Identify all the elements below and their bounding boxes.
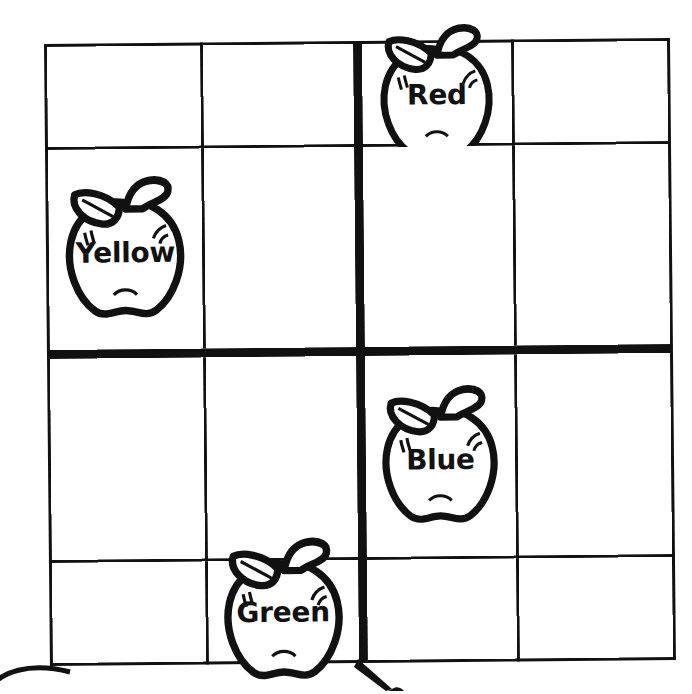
table-row: Green bbox=[50, 555, 674, 664]
apple-label-blue: Blue bbox=[406, 446, 475, 475]
grid-cell-r2c4[interactable] bbox=[514, 143, 672, 351]
table-row: Blue bbox=[48, 349, 673, 561]
partial-arc-mark-icon bbox=[0, 658, 102, 694]
apple-graphic-yellow: Yellow bbox=[48, 149, 203, 351]
grid-cell-r3c2[interactable] bbox=[204, 352, 362, 560]
grid-cell-r4c4[interactable] bbox=[518, 555, 675, 660]
apple-graphic-green: Green bbox=[208, 560, 359, 662]
apple-label-green: Green bbox=[236, 598, 329, 627]
partial-pointer-mark-icon bbox=[352, 655, 442, 691]
table-row: Yellow bbox=[47, 143, 672, 355]
grid-container: Red bbox=[44, 38, 676, 666]
apple-graphic-red: Red bbox=[362, 43, 513, 145]
grid-cell-r4c2[interactable]: Green bbox=[206, 558, 363, 663]
grid-cell-r4c3[interactable] bbox=[362, 557, 519, 662]
grid-cell-r1c2[interactable] bbox=[201, 42, 358, 147]
apple-grid: Red bbox=[44, 38, 676, 666]
apple-label-red: Red bbox=[407, 81, 467, 110]
grid-cell-r4c1[interactable] bbox=[50, 560, 207, 665]
grid-cell-r3c1[interactable] bbox=[48, 353, 206, 561]
grid-cell-r3c3[interactable]: Blue bbox=[360, 350, 518, 558]
table-row: Red bbox=[46, 40, 670, 149]
grid-cell-r3c4[interactable] bbox=[516, 349, 674, 557]
grid-cell-r1c1[interactable] bbox=[46, 44, 203, 149]
grid-cell-r1c4[interactable] bbox=[513, 40, 670, 145]
grid-cell-r2c2[interactable] bbox=[202, 146, 360, 354]
apple-label-yellow: Yellow bbox=[76, 239, 175, 268]
grid-cell-r2c1[interactable]: Yellow bbox=[47, 147, 205, 355]
grid-cell-r1c3[interactable]: Red bbox=[357, 41, 514, 146]
grid-cell-r2c3[interactable] bbox=[358, 144, 516, 352]
apple-graphic-blue: Blue bbox=[365, 355, 517, 557]
